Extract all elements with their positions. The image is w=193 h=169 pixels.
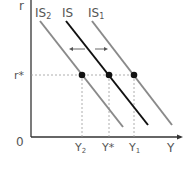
arrow-left-icon — [69, 47, 73, 51]
y1-label: Y1 — [128, 141, 140, 155]
arrow-right-icon — [104, 47, 108, 51]
equilibrium-point-is — [106, 72, 113, 79]
y-axis-label: r — [19, 0, 24, 13]
is-shift-diagram: r 0 Y r* IS2 IS IS1 Y2 Y* Y1 — [0, 0, 193, 169]
x-axis-arrowhead-icon — [177, 135, 183, 140]
equilibrium-point-is2 — [79, 72, 86, 79]
ystar-label: Y* — [101, 141, 115, 154]
is2-label: IS2 — [35, 6, 51, 21]
r-star-label: r* — [14, 69, 25, 82]
equilibrium-point-is1 — [131, 72, 138, 79]
origin-label: 0 — [16, 135, 24, 149]
is-label: IS — [62, 6, 73, 20]
is1-label: IS1 — [88, 6, 104, 21]
y2-label: Y2 — [74, 141, 86, 155]
x-axis-label: Y — [166, 141, 175, 155]
